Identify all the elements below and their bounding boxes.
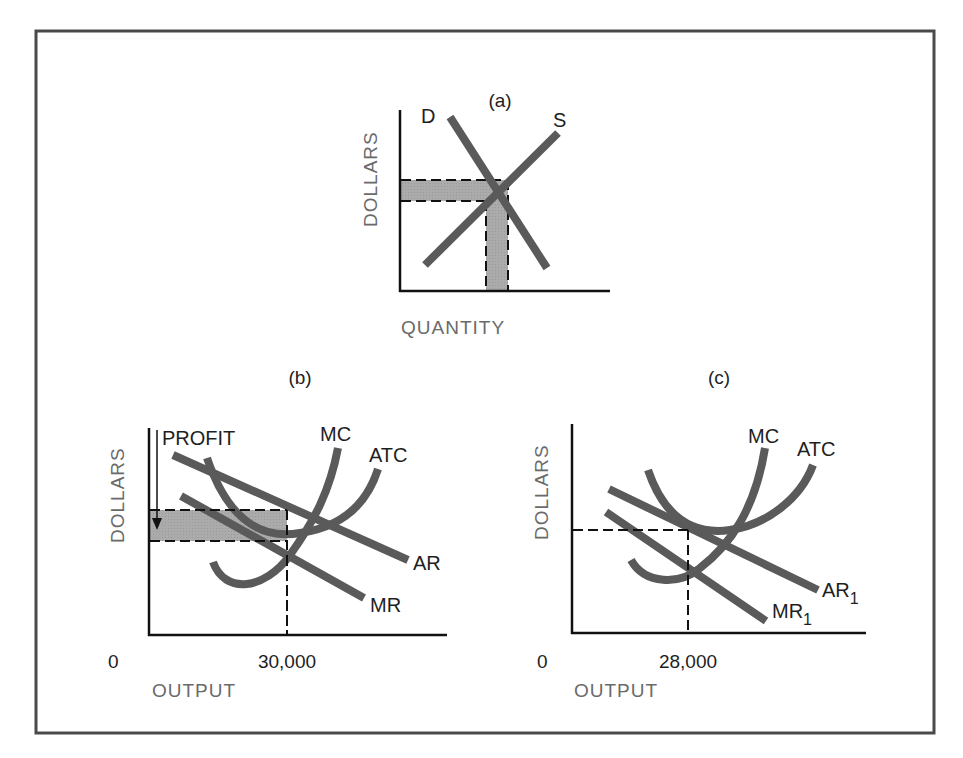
label-d: D [421, 105, 435, 127]
label-mc: MC [748, 425, 779, 447]
y-axis-label: DOLLARS [360, 131, 381, 227]
x-tick-label: 30,000 [258, 651, 316, 672]
panel-a-title: (a) [488, 90, 511, 111]
x-tick-label: 28,000 [659, 651, 717, 672]
panel-b: (b) PROFIT MC ATC AR MR 0 30,000 DOLL [107, 367, 447, 701]
label-ar1-sub: 1 [850, 590, 859, 607]
y-axis-label: DOLLARS [531, 444, 552, 540]
label-ar1-main: AR [822, 579, 850, 601]
profit-label: PROFIT [162, 427, 235, 449]
label-mr: MR [370, 594, 401, 616]
economics-figure: (a) D S DOLLARS QUANTITY (b) [0, 0, 963, 758]
label-mr1-sub: 1 [803, 611, 812, 628]
y-axis-label: DOLLARS [107, 447, 128, 543]
label-ar1: AR1 [822, 579, 859, 607]
label-ar: AR [413, 552, 441, 574]
panel-c-title: (c) [708, 367, 730, 388]
figure-frame [36, 31, 934, 733]
label-mr1: MR1 [772, 600, 812, 628]
origin-label: 0 [537, 651, 548, 672]
x-axis-label: QUANTITY [401, 317, 505, 338]
label-mr1-main: MR [772, 600, 803, 622]
label-atc: ATC [369, 444, 408, 466]
panel-b-title: (b) [288, 367, 311, 388]
x-axis-label: OUTPUT [152, 680, 236, 701]
x-axis-label: OUTPUT [574, 680, 658, 701]
origin-label: 0 [108, 651, 119, 672]
panel-c: (c) MC ATC AR1 MR1 0 28,000 DOLLARS OUTP… [531, 367, 866, 701]
label-atc: ATC [797, 438, 836, 460]
label-mc: MC [320, 423, 351, 445]
panel-a: (a) D S DOLLARS QUANTITY [360, 90, 610, 338]
label-s: S [553, 109, 566, 131]
mc-curve [631, 448, 765, 580]
